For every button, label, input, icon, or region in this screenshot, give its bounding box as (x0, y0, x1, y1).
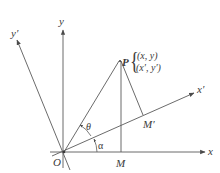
point-M-label: M (116, 158, 125, 169)
x-prime-axis-label: x′ (197, 84, 204, 95)
y-axis-label: y (59, 16, 64, 27)
point-P-label: P (122, 57, 129, 68)
coords-original: (x, y) (137, 51, 158, 61)
x-axis-label: x (208, 146, 213, 157)
alpha-arc (94, 139, 97, 152)
theta-label: θ (86, 122, 91, 132)
point-M-prime-label: M′ (143, 119, 155, 130)
alpha-label: α (98, 141, 103, 151)
x-prime-axis (52, 93, 194, 156)
y-prime-axis-label: y′ (11, 28, 18, 39)
y-prime-axis (17, 40, 70, 170)
point-P (119, 60, 121, 62)
origin-point (63, 151, 66, 154)
rotation-diagram (0, 0, 220, 173)
coords-rotated: (x′, y′) (136, 63, 161, 73)
origin-label: O (53, 157, 61, 168)
